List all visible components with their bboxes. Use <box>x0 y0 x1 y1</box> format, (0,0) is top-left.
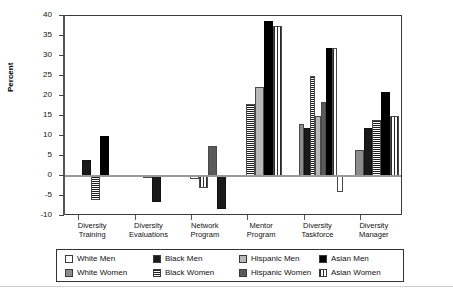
legend-swatch-icon <box>153 269 161 277</box>
y-tick-label: 5 <box>30 151 52 159</box>
y-tick-label: 40 <box>30 11 52 19</box>
bar <box>273 26 282 176</box>
y-tick <box>59 135 64 136</box>
x-axis-label: Mentor Program <box>231 221 291 239</box>
legend-item[interactable]: Black Men <box>153 254 202 263</box>
legend-label: Black Women <box>165 268 214 277</box>
bar <box>390 116 399 176</box>
legend-swatch-icon <box>153 255 161 263</box>
bar <box>381 92 390 176</box>
bar <box>337 176 343 192</box>
legend-label: Black Men <box>165 254 202 263</box>
legend-swatch-icon <box>239 269 247 277</box>
bar <box>246 104 255 176</box>
y-tick-label: 30 <box>30 51 52 59</box>
caption-divider <box>0 286 453 287</box>
bar <box>91 176 100 200</box>
y-tick <box>59 115 64 116</box>
bar <box>217 176 226 209</box>
y-tick <box>59 215 64 216</box>
plot-area <box>64 15 402 215</box>
bar <box>152 176 161 202</box>
x-axis-label: Diversity Taskforce <box>288 221 348 239</box>
bar <box>264 21 273 176</box>
y-tick-label: 25 <box>30 71 52 79</box>
legend-item[interactable]: Hispanic Men <box>239 254 299 263</box>
legend-item[interactable]: Black Women <box>153 268 214 277</box>
y-tick-label: 0 <box>30 171 52 179</box>
y-tick-label: 35 <box>30 31 52 39</box>
y-tick <box>59 15 64 16</box>
zero-baseline <box>65 175 401 177</box>
legend-swatch-icon <box>319 255 327 263</box>
legend-label: Hispanic Men <box>251 254 299 263</box>
y-tick-label: -10 <box>30 211 52 219</box>
bar <box>372 120 381 176</box>
legend: White MenWhite WomenBlack MenBlack Women… <box>56 249 404 282</box>
x-tick <box>78 215 79 220</box>
x-tick <box>360 215 361 220</box>
y-tick <box>59 155 64 156</box>
legend-swatch-icon <box>239 255 247 263</box>
y-tick <box>59 175 64 176</box>
y-tick <box>59 195 64 196</box>
bar <box>364 128 373 176</box>
legend-item[interactable]: Asian Women <box>319 268 381 277</box>
y-tick-label: 10 <box>30 131 52 139</box>
y-tick <box>59 55 64 56</box>
x-tick <box>191 215 192 220</box>
y-tick <box>59 75 64 76</box>
legend-label: White Women <box>77 268 127 277</box>
x-axis-label: Network Program <box>175 221 235 239</box>
x-axis-label: Diversity Manager <box>344 221 404 239</box>
x-axis-label: Diversity Evaluations <box>119 221 179 239</box>
legend-label: Hispanic Women <box>251 268 311 277</box>
bar <box>82 160 91 176</box>
bars-layer <box>65 16 401 214</box>
y-tick-label: 20 <box>30 91 52 99</box>
y-tick-label: -5 <box>30 191 52 199</box>
x-tick <box>247 215 248 220</box>
bar <box>199 176 208 188</box>
bar <box>332 48 338 176</box>
bar <box>255 87 264 176</box>
bar-chart-figure: -10-50510152025303540 Percent Diversity … <box>0 0 453 291</box>
bar <box>355 150 364 176</box>
y-tick <box>59 95 64 96</box>
legend-label: Asian Men <box>331 254 369 263</box>
y-tick-label: 15 <box>30 111 52 119</box>
legend-item[interactable]: Hispanic Women <box>239 268 311 277</box>
x-tick <box>135 215 136 220</box>
legend-item[interactable]: Asian Men <box>319 254 369 263</box>
bar <box>100 136 109 176</box>
y-axis-title: Percent <box>6 63 15 92</box>
y-tick <box>59 35 64 36</box>
legend-label: White Men <box>77 254 115 263</box>
legend-item[interactable]: White Men <box>65 254 115 263</box>
x-axis-label: Diversity Training <box>62 221 122 239</box>
x-tick <box>304 215 305 220</box>
legend-swatch-icon <box>319 269 327 277</box>
legend-swatch-icon <box>65 269 73 277</box>
legend-item[interactable]: White Women <box>65 268 127 277</box>
legend-label: Asian Women <box>331 268 381 277</box>
bar <box>208 146 217 176</box>
legend-swatch-icon <box>65 255 73 263</box>
